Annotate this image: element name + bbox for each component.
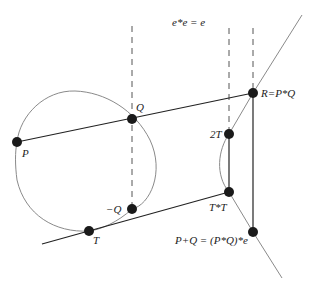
point-tt xyxy=(224,187,234,197)
label-t: T xyxy=(93,234,100,246)
label-q: Q xyxy=(136,101,144,113)
label-neg-q: −Q xyxy=(106,203,121,215)
label-tt: T*T xyxy=(209,201,228,213)
label-p: P xyxy=(21,147,29,159)
label-pq: P+Q = (P*Q)*e xyxy=(174,234,248,247)
point-r xyxy=(248,88,258,98)
title-label: e*e = e xyxy=(172,16,205,28)
point-q xyxy=(127,114,137,124)
point-p xyxy=(12,137,22,147)
point-neg-q xyxy=(127,204,137,214)
label-2t: 2T xyxy=(210,128,223,140)
elliptic-curve-diagram: e*e = e P Q R=P*Q 2T T*T P+Q = (P*Q)*e −… xyxy=(0,0,310,288)
point-pq xyxy=(248,227,258,237)
label-r: R=P*Q xyxy=(260,87,295,99)
point-2t xyxy=(224,129,234,139)
